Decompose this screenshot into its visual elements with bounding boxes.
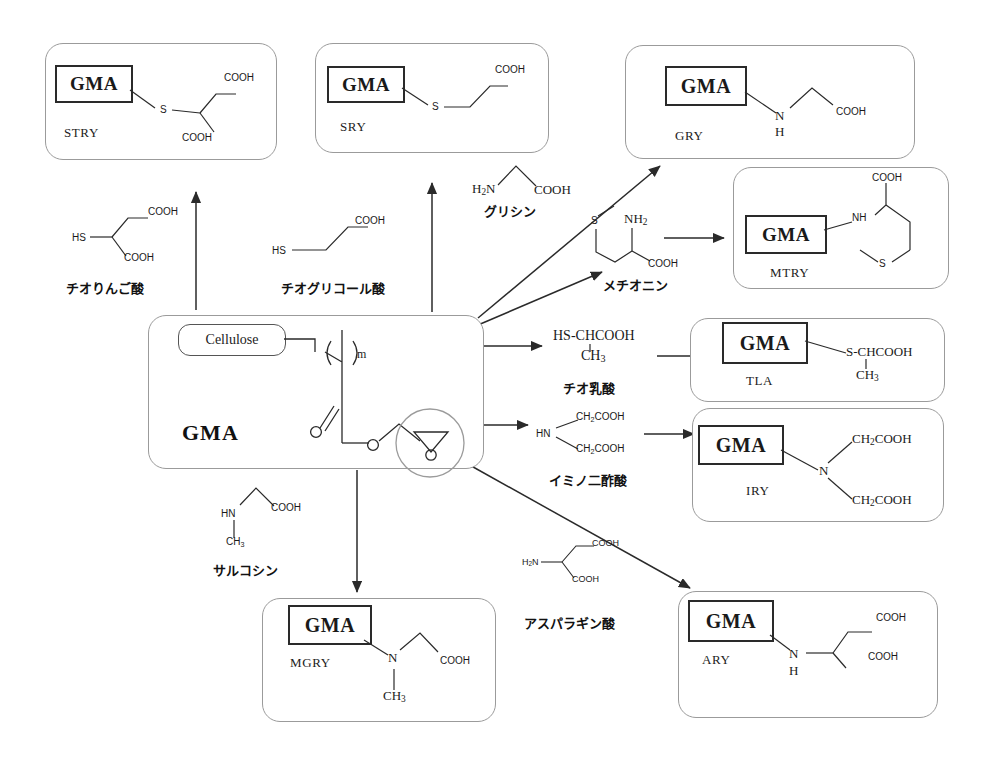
aspartic-structure bbox=[0, 0, 987, 765]
reagent-label-aspartic-acid: アスパラギン酸 bbox=[524, 613, 615, 632]
aspartic-atom-cooh-1: COOH bbox=[592, 538, 619, 548]
aspartic-atom-h2n: H2N bbox=[522, 557, 539, 567]
reaction-scheme-diagram: Cellulose GMA m GMA STRY S CO bbox=[0, 0, 987, 765]
aspartic-atom-cooh-2: COOH bbox=[572, 574, 599, 584]
